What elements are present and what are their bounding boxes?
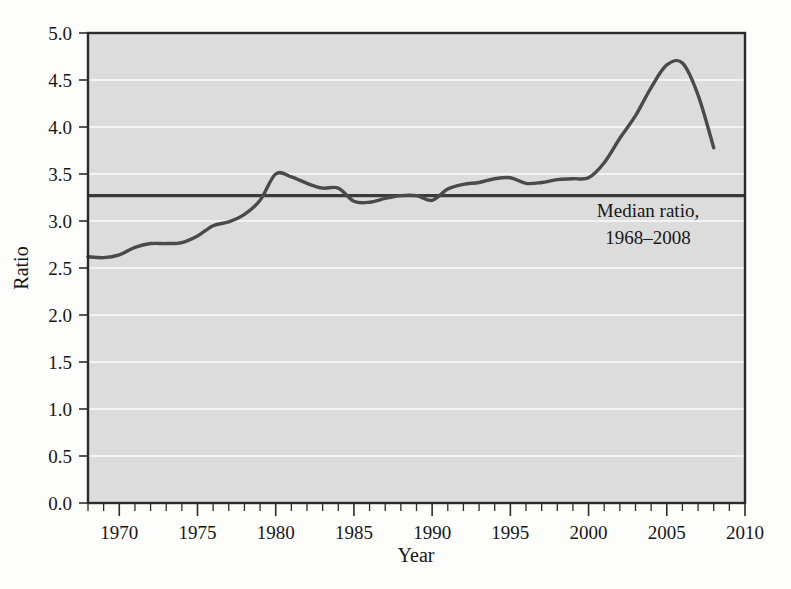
- median-annotation-line2: 1968–2008: [605, 227, 691, 248]
- y-axis-tick-label: 1.0: [48, 399, 72, 420]
- x-axis-tick-label: 1995: [491, 522, 529, 543]
- y-axis-tick-label: 1.5: [48, 352, 72, 373]
- x-axis-tick-label: 1970: [100, 522, 138, 543]
- x-axis-tick-labels: 197019751980198519901995200020052010: [100, 522, 764, 543]
- y-axis-ticks: [79, 33, 88, 503]
- x-axis-tick-label: 1990: [413, 522, 451, 543]
- x-axis-minor-ticks: [88, 503, 729, 511]
- x-axis-tick-label: 1975: [179, 522, 217, 543]
- x-axis-tick-label: 1985: [335, 522, 373, 543]
- x-axis-title: Year: [398, 544, 435, 566]
- median-annotation-line1: Median ratio,: [597, 200, 699, 221]
- y-axis-tick-label: 0.5: [48, 446, 72, 467]
- x-axis-tick-label: 1980: [257, 522, 295, 543]
- y-axis-tick-label: 2.5: [48, 258, 72, 279]
- chart-figure: 0.00.51.01.52.02.53.03.54.04.55.0 197019…: [0, 0, 791, 589]
- y-axis-tick-label: 5.0: [48, 23, 72, 44]
- y-axis-tick-label: 4.0: [48, 117, 72, 138]
- y-axis-tick-label: 3.5: [48, 164, 72, 185]
- y-axis-tick-labels: 0.00.51.01.52.02.53.03.54.04.55.0: [48, 23, 72, 514]
- y-axis-tick-label: 0.0: [48, 493, 72, 514]
- x-axis-tick-label: 2000: [570, 522, 608, 543]
- line-chart: 0.00.51.01.52.02.53.03.54.04.55.0 197019…: [0, 0, 791, 589]
- x-axis-tick-label: 2010: [726, 522, 764, 543]
- x-axis-tick-label: 2005: [648, 522, 686, 543]
- y-axis-title: Ratio: [10, 246, 32, 289]
- y-axis-tick-label: 2.0: [48, 305, 72, 326]
- y-axis-tick-label: 4.5: [48, 70, 72, 91]
- y-axis-tick-label: 3.0: [48, 211, 72, 232]
